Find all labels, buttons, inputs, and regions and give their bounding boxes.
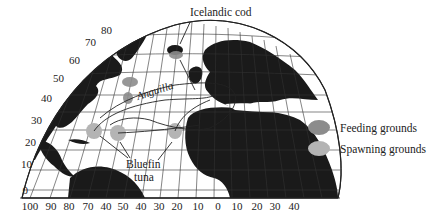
- legend: Feeding grounds Spawning grounds: [308, 117, 426, 159]
- svg-text:40: 40: [289, 200, 301, 212]
- feeding-swatch-icon: [308, 120, 330, 135]
- map-canvas: 80 70 60 50 40 30 20 10 0 100 90 80 70 4…: [0, 0, 436, 214]
- icelandic-cod-label: Icelandic cod: [190, 6, 252, 18]
- legend-item-feeding: Feeding grounds: [308, 117, 426, 138]
- bluefin-label-line1: Bluefin: [126, 158, 161, 170]
- legend-label: Feeding grounds: [340, 122, 417, 134]
- svg-text:30: 30: [31, 114, 43, 126]
- longitude-labels: 100 90 80 70 40 50 40 30 20 10 0 10 20 3…: [22, 200, 300, 212]
- svg-text:0: 0: [23, 184, 29, 196]
- svg-text:70: 70: [83, 200, 95, 212]
- svg-text:10: 10: [193, 200, 205, 212]
- legend-label: Spawning grounds: [340, 143, 426, 155]
- svg-text:60: 60: [69, 54, 81, 66]
- svg-text:70: 70: [85, 36, 97, 48]
- svg-text:50: 50: [118, 200, 130, 212]
- svg-text:30: 30: [154, 200, 166, 212]
- svg-text:40: 40: [41, 92, 53, 104]
- bluefin-label-line2: tuna: [134, 171, 154, 183]
- migration-map-figure: 80 70 60 50 40 30 20 10 0 100 90 80 70 4…: [0, 0, 436, 214]
- svg-text:20: 20: [25, 136, 37, 148]
- svg-text:40: 40: [136, 200, 148, 212]
- svg-text:30: 30: [270, 200, 282, 212]
- svg-text:50: 50: [53, 72, 65, 84]
- svg-text:80: 80: [64, 200, 76, 212]
- svg-text:90: 90: [46, 200, 58, 212]
- legend-item-spawning: Spawning grounds: [308, 138, 426, 159]
- svg-text:100: 100: [22, 200, 39, 212]
- svg-text:10: 10: [21, 158, 33, 170]
- svg-text:20: 20: [252, 200, 264, 212]
- svg-text:10: 10: [232, 200, 244, 212]
- svg-text:0: 0: [215, 200, 221, 212]
- svg-text:40: 40: [101, 200, 113, 212]
- svg-text:20: 20: [172, 200, 184, 212]
- spawning-swatch-icon: [308, 141, 330, 156]
- svg-text:80: 80: [101, 24, 113, 36]
